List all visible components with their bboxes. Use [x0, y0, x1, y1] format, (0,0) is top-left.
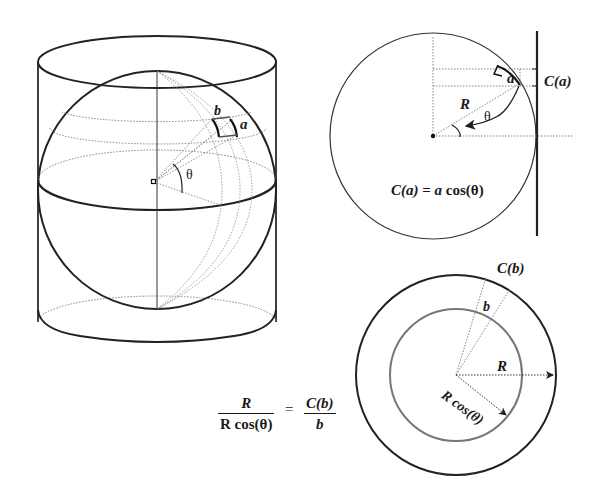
eq-rhs-fn: cos(θ)	[446, 182, 484, 198]
eq-equals: =	[422, 182, 431, 198]
fraction-right: C(b) b	[304, 395, 336, 432]
label-b-left: b	[214, 104, 221, 118]
frac-right-bar	[304, 413, 336, 414]
segment-bottom	[219, 135, 237, 137]
meridian-3	[157, 71, 222, 309]
segment-a	[230, 119, 237, 137]
label-theta-left: θ	[186, 168, 193, 182]
center-dot	[431, 134, 435, 138]
label-Ca: C(a)	[544, 74, 572, 89]
sphere-in-cylinder	[38, 36, 276, 342]
concentric-circles-diagram	[356, 275, 556, 475]
frac-left-den: R cos(θ)	[218, 416, 274, 432]
ratio-equals: =	[285, 402, 293, 417]
frac-right-num: C(b)	[304, 395, 336, 411]
radius-R	[433, 84, 519, 136]
segment-b	[212, 119, 219, 137]
label-R-bottom: R	[497, 359, 507, 374]
eq-lhs: C(a)	[391, 182, 419, 198]
theta-arc	[452, 125, 460, 137]
label-a-right: a	[507, 71, 515, 86]
tangent-circle-diagram	[330, 31, 574, 239]
radius-line-1	[456, 277, 486, 375]
theta-arrow	[466, 86, 519, 126]
frac-right-den: b	[314, 416, 326, 432]
theta-arc-left	[173, 164, 182, 193]
fraction-left: R R cos(θ)	[218, 395, 274, 432]
cylinder-bottom-front	[38, 310, 276, 342]
frac-left-num: R	[239, 395, 253, 411]
label-b-bottom: b	[483, 300, 490, 314]
equation-Ca: C(a) = a cos(θ)	[391, 183, 484, 198]
eq-rhs-var: a	[435, 182, 443, 198]
frac-left-bar	[218, 413, 274, 414]
sphere-center	[152, 180, 156, 184]
label-Cb: C(b)	[497, 261, 525, 276]
label-theta-right: θ	[484, 110, 491, 124]
label-a-left: a	[240, 117, 248, 132]
meridian-1	[157, 71, 240, 309]
radii	[154, 119, 235, 205]
meridian-2	[157, 71, 252, 309]
label-R-top: R	[460, 97, 470, 112]
